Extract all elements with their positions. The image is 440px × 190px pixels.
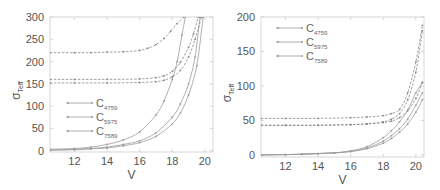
x-tick-label: 16 bbox=[345, 160, 357, 172]
legend-label: C5975 bbox=[306, 36, 328, 50]
x-tick-label: 14 bbox=[101, 155, 113, 167]
y-tick-label: 100 bbox=[237, 80, 255, 92]
series-line bbox=[50, 17, 202, 83]
y-tick-label: 150 bbox=[26, 78, 44, 90]
y-tick-label: 200 bbox=[26, 56, 44, 68]
series-line bbox=[261, 25, 422, 118]
legend-label: C4759 bbox=[96, 97, 118, 111]
chart-canvas: 1214161820050100150200250300VσTeffC4759C… bbox=[0, 0, 440, 190]
x-tick-label: 14 bbox=[312, 160, 324, 172]
legend-label: C4759 bbox=[306, 22, 328, 36]
y-tick-label: 250 bbox=[26, 33, 44, 45]
y-tick-label: 0 bbox=[249, 149, 255, 161]
y-tick-label: 0 bbox=[38, 145, 44, 157]
x-tick-label: 12 bbox=[279, 160, 291, 172]
y-tick-label: 150 bbox=[237, 45, 255, 57]
y-axis-label: σTeff bbox=[9, 81, 24, 100]
x-tick-label: 18 bbox=[166, 155, 178, 167]
plot-panel-right: 1214161820050100150200VσTeffC4759C5975C7… bbox=[220, 11, 424, 187]
y-axis-label: σTeff bbox=[220, 84, 235, 103]
series-line bbox=[261, 100, 422, 155]
x-tick-label: 20 bbox=[199, 155, 211, 167]
series-line bbox=[50, 17, 184, 53]
x-tick-label: 18 bbox=[377, 160, 389, 172]
y-tick-label: 50 bbox=[243, 114, 255, 126]
legend-label: C7589 bbox=[306, 50, 328, 64]
y-tick-label: 100 bbox=[26, 100, 44, 112]
legend-label: C7589 bbox=[96, 125, 118, 139]
series-line bbox=[50, 17, 203, 150]
x-tick-label: 12 bbox=[68, 155, 80, 167]
y-tick-label: 300 bbox=[26, 11, 44, 23]
y-tick-label: 200 bbox=[237, 11, 255, 23]
y-tick-label: 50 bbox=[32, 122, 44, 134]
series-line bbox=[50, 17, 200, 150]
figure: 1214161820050100150200250300VσTeffC4759C… bbox=[0, 0, 440, 190]
x-axis-label: V bbox=[127, 168, 135, 182]
series-line bbox=[50, 17, 198, 79]
x-tick-label: 16 bbox=[134, 155, 146, 167]
x-tick-label: 20 bbox=[410, 160, 422, 172]
plot-frame bbox=[261, 17, 424, 157]
x-axis-label: V bbox=[338, 173, 346, 187]
plot-panel-left: 1214161820050100150200250300VσTeffC4759C… bbox=[9, 11, 213, 182]
legend-label: C5975 bbox=[96, 111, 118, 125]
